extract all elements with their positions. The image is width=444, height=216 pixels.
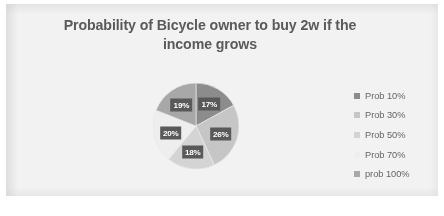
- legend-item-label: Prob 50%: [365, 130, 405, 140]
- chart-container: Probability of Bicycle owner to buy 2w i…: [6, 4, 438, 196]
- legend-swatch-icon: [354, 171, 360, 177]
- pie-slice-label: 19%: [171, 98, 193, 111]
- legend-item[interactable]: Prob 30%: [354, 106, 438, 126]
- legend-swatch-icon: [354, 93, 360, 99]
- legend-item-label: Prob 70%: [365, 150, 405, 160]
- chart-legend: Prob 10%Prob 30%Prob 50%Prob 70%prob 100…: [354, 86, 438, 184]
- plot-area: 17%26%18%20%19% Prob 10%Prob 30%Prob 50%…: [6, 4, 438, 196]
- pie-slice-label: 18%: [182, 145, 204, 158]
- pie-slice-label: 20%: [160, 126, 182, 139]
- legend-item[interactable]: prob 100%: [354, 164, 438, 184]
- legend-item[interactable]: Prob 50%: [354, 125, 438, 145]
- legend-item-label: prob 100%: [365, 169, 410, 179]
- legend-swatch-icon: [354, 152, 360, 158]
- legend-swatch-icon: [354, 112, 360, 118]
- legend-item[interactable]: Prob 70%: [354, 145, 438, 165]
- pie-slice-label: 26%: [210, 128, 232, 141]
- legend-swatch-icon: [354, 132, 360, 138]
- legend-item-label: Prob 10%: [365, 91, 405, 101]
- legend-item-label: Prob 30%: [365, 110, 405, 120]
- pie-slice-label: 17%: [198, 97, 220, 110]
- legend-item[interactable]: Prob 10%: [354, 86, 438, 106]
